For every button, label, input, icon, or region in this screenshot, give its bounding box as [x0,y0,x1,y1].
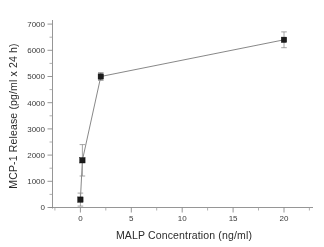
y-tick-label: 0 [41,203,46,212]
line-chart-plot: 0 1000 2000 3000 4000 5000 6000 7000 MCP… [0,0,324,247]
x-tick-label: 5 [129,214,134,223]
chart-background [0,0,324,247]
x-tick-label: 10 [178,214,187,223]
y-tick-label: 2000 [27,151,45,160]
x-tick-label: 0 [78,214,83,223]
x-tick-label: 20 [280,214,289,223]
data-point-marker [78,197,83,202]
y-tick-label: 3000 [27,125,45,134]
y-tick-label: 5000 [27,72,45,81]
y-axis-title: MCP-1 Release (pg/ml x 24 h) [7,43,19,188]
y-tick-label: 4000 [27,99,45,108]
data-point-marker [80,158,85,163]
data-point-marker [281,37,286,42]
data-point-marker [98,74,103,79]
x-tick-label: 15 [229,214,238,223]
y-tick-label: 6000 [27,46,45,55]
y-tick-label: 7000 [27,20,45,29]
y-tick-label: 1000 [27,177,45,186]
chart-figure: 0 1000 2000 3000 4000 5000 6000 7000 MCP… [0,0,324,247]
x-axis-title: MALP Concentration (ng/ml) [116,229,252,241]
